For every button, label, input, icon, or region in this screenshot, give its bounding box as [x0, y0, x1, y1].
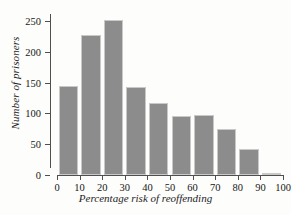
x-tick-mark [57, 175, 58, 180]
y-tick-mark [45, 113, 50, 114]
x-tick-mark [125, 175, 126, 180]
y-tick-mark [45, 52, 50, 53]
y-axis-line [50, 14, 51, 168]
y-tick-label: 0 [7, 170, 41, 181]
x-tick-mark [193, 175, 194, 180]
bar [217, 129, 236, 175]
x-tick-mark [147, 175, 148, 180]
plot-area: 050100150200250 0102030405060708090100 [57, 14, 283, 168]
x-tick-mark [283, 175, 284, 180]
bar [194, 115, 213, 175]
bar [239, 149, 258, 175]
y-tick-mark [45, 175, 50, 176]
x-tick-mark [102, 175, 103, 180]
y-tick-label: 250 [7, 16, 41, 27]
bar [59, 86, 78, 175]
y-tick-label: 50 [7, 139, 41, 150]
histogram-chart: Number of prisoners 050100150200250 0102… [0, 0, 291, 215]
x-tick-mark [238, 175, 239, 180]
bar [104, 20, 123, 175]
x-tick-mark [170, 175, 171, 180]
x-tick-mark [260, 175, 261, 180]
y-tick-mark [45, 144, 50, 145]
y-tick-label: 150 [7, 77, 41, 88]
y-tick-label: 200 [7, 46, 41, 57]
bar [262, 173, 281, 175]
bar [81, 35, 100, 175]
x-axis-title: Percentage risk of reoffending [0, 192, 291, 204]
x-tick-mark [80, 175, 81, 180]
bar [149, 103, 168, 175]
bar [126, 87, 145, 175]
y-tick-mark [45, 83, 50, 84]
y-tick-label: 100 [7, 108, 41, 119]
bar [172, 116, 191, 175]
x-tick-mark [215, 175, 216, 180]
y-tick-mark [45, 21, 50, 22]
